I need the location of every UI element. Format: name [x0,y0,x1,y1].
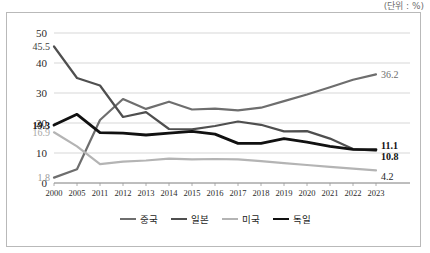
y-tick-label: 50 [36,27,48,39]
legend-label: 일본 [191,212,209,226]
x-tick-label: 2017 [230,188,247,198]
series-line-독일 [54,114,376,149]
legend-label: 중국 [140,212,158,226]
value-label-end-미국: 4.2 [381,171,394,182]
legend-label: 미국 [242,212,260,226]
value-labels: 45.519.316.91.836.211.110.84.2 [33,41,399,183]
x-axis-ticks: 2000200520112012201320142015201620172018… [46,183,385,198]
y-tick-label: 30 [36,87,48,99]
value-label-start-중국: 1.8 [38,172,51,183]
x-tick-label: 2015 [184,188,201,198]
legend-swatch-icon [273,218,289,220]
x-tick-label: 2019 [276,188,293,198]
x-tick-label: 2005 [69,188,86,198]
legend-item-독일[interactable]: 독일 [273,212,311,226]
x-tick-label: 2020 [299,188,316,198]
x-tick-label: 2023 [368,188,385,198]
value-label-start-미국: 16.9 [33,127,51,138]
legend-item-중국[interactable]: 중국 [120,212,158,226]
x-tick-label: 2012 [115,188,132,198]
x-tick-label: 2016 [207,188,224,198]
legend-item-일본[interactable]: 일본 [171,212,209,226]
x-tick-label: 2014 [161,188,179,198]
legend-swatch-icon [171,218,187,220]
x-tick-label: 2018 [253,188,270,198]
value-label-start-일본: 45.5 [33,41,51,52]
gridlines [54,33,410,183]
y-tick-label: 10 [36,147,48,159]
x-tick-label: 2013 [138,188,155,198]
series-lines [54,47,376,178]
y-tick-label: 40 [36,57,48,69]
x-tick-label: 2000 [46,188,63,198]
value-label-end-중국: 36.2 [381,69,399,80]
chart-root: (단위 : %) 01020304050 2000200520112012201… [0,0,430,253]
x-tick-label: 2021 [322,188,339,198]
value-label-end-독일: 11.1 [381,140,398,151]
legend-swatch-icon [222,218,238,220]
legend-swatch-icon [120,218,136,220]
x-tick-label: 2022 [345,188,362,198]
chart-legend: 중국일본미국독일 [0,212,430,226]
x-tick-label: 2011 [92,188,109,198]
value-label-end-일본: 10.8 [381,151,399,162]
legend-item-미국[interactable]: 미국 [222,212,260,226]
legend-label: 독일 [293,212,311,226]
